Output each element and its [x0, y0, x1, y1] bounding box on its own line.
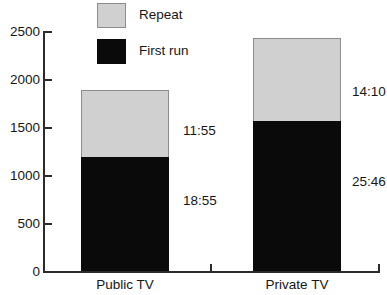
annotation-private-first-run: 25:46 — [352, 175, 386, 189]
y-tick-label-0: 0 — [0, 265, 40, 279]
y-tick-label-2000: 2000 — [0, 73, 40, 87]
legend-item-repeat[interactable]: Repeat — [97, 2, 183, 28]
y-tick-1000 — [45, 175, 52, 177]
annotation-public-repeat: 11:55 — [183, 124, 216, 138]
bar-private-tv[interactable] — [253, 38, 341, 271]
grey-swatch-icon — [97, 3, 126, 28]
bar-segment-private-repeat[interactable] — [253, 38, 341, 122]
stacked-bar-chart: Repeat First run 2500 2000 1500 1000 500… — [0, 0, 387, 295]
legend-item-first-run[interactable]: First run — [97, 38, 189, 64]
chart-legend: Repeat First run — [97, 2, 277, 66]
y-tick-label-1500: 1500 — [0, 121, 40, 135]
y-tick-label-1000: 1000 — [0, 169, 40, 183]
x-tick-middle — [210, 264, 212, 272]
black-swatch-icon — [97, 39, 126, 64]
bar-public-tv[interactable] — [81, 90, 169, 271]
legend-label-first-run: First run — [139, 44, 189, 58]
y-tick-500 — [45, 223, 52, 225]
y-tick-label-2500: 2500 — [0, 25, 40, 39]
annotation-private-repeat: 14:10 — [352, 85, 386, 99]
x-axis-label-private-tv: Private TV — [237, 278, 357, 292]
x-tick-right — [378, 264, 380, 272]
legend-label-repeat: Repeat — [139, 8, 183, 22]
y-axis-line — [43, 31, 45, 273]
y-tick-label-500: 500 — [0, 217, 40, 231]
bar-segment-public-first-run[interactable] — [81, 157, 169, 271]
annotation-public-first-run: 18:55 — [183, 194, 217, 208]
y-tick-1500 — [45, 127, 52, 129]
bar-segment-private-first-run[interactable] — [253, 121, 341, 271]
y-axis-tick-labels: 2500 2000 1500 1000 500 0 — [0, 0, 40, 295]
y-tick-2500 — [45, 31, 52, 33]
bar-segment-public-repeat[interactable] — [81, 90, 169, 158]
x-axis-label-public-tv: Public TV — [65, 278, 185, 292]
y-tick-2000 — [45, 79, 52, 81]
